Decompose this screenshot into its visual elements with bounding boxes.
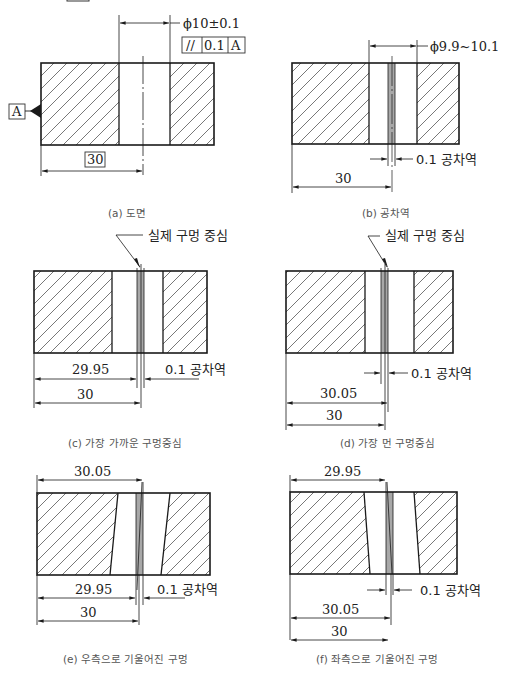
top-label-f: 29.95 (324, 464, 361, 479)
fcf-tolerance: 0.1 (204, 38, 225, 53)
tolerance-diagram: ϕ10±0.1 // 0.1 A A 30 (a) 도면 ϕ9.9~10.1 0… (0, 0, 507, 678)
parallelism-symbol: // (186, 38, 195, 53)
center-label-d: 실제 구멍 중심 (385, 228, 465, 243)
position-label-e: 30 (80, 605, 97, 620)
caption-b: (b) 공차역 (362, 207, 410, 219)
center-label-c: 실제 구멍 중심 (148, 228, 228, 243)
fcf-datum: A (230, 38, 241, 53)
position-label-d: 30 (326, 408, 343, 423)
position-label-a: 30 (87, 152, 104, 167)
figure-c-drawing (34, 235, 207, 408)
zone-label-e: 0.1 공차역 (157, 582, 218, 597)
figure-d-drawing (286, 236, 453, 430)
near-label-c: 29.95 (72, 362, 109, 377)
figure-b-drawing (292, 40, 459, 193)
caption-e: (e) 우측으로 기울어진 구멍 (63, 653, 188, 665)
diameter-label-b: ϕ9.9~10.1 (430, 39, 499, 54)
caption-f: (f) 좌측으로 기울어진 구멍 (316, 653, 438, 665)
zone-label-d: 0.1 공차역 (411, 366, 472, 381)
position-label-b: 30 (335, 171, 352, 186)
far-label-f: 30.05 (322, 602, 359, 617)
zone-label-b: 0.1 공차역 (416, 152, 477, 167)
caption-d: (d) 가장 먼 구멍중심 (340, 437, 435, 449)
figure-e-drawing (37, 475, 210, 625)
figure-f-drawing (290, 475, 457, 640)
datum-label: A (11, 104, 22, 119)
cropped-box (67, 0, 89, 1)
position-label-c: 30 (77, 387, 94, 402)
zone-label-f: 0.1 공차역 (420, 583, 481, 598)
diameter-label-a: ϕ10±0.1 (183, 16, 240, 31)
far-label-d: 30.05 (320, 386, 357, 401)
near-label-e: 29.95 (75, 582, 112, 597)
position-label-f: 30 (331, 624, 348, 639)
caption-a: (a) 도면 (108, 207, 146, 219)
zone-label-c: 0.1 공차역 (165, 362, 226, 377)
top-label-e: 30.05 (74, 464, 111, 479)
caption-c: (c) 가장 가까운 구멍중심 (68, 437, 182, 449)
